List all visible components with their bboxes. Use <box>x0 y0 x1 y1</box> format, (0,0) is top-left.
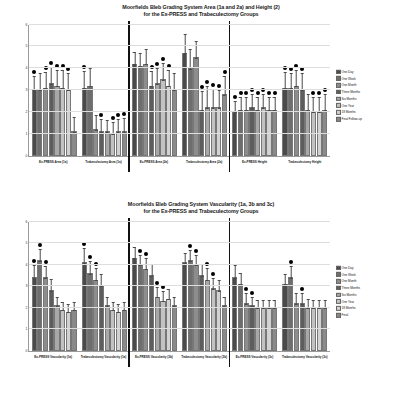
bar <box>54 86 59 156</box>
bar <box>282 284 287 351</box>
bar <box>110 310 115 351</box>
bar <box>32 277 37 350</box>
error-bar <box>90 68 91 86</box>
legend-item[interactable]: Final Follow-up <box>336 117 400 122</box>
error-bar <box>246 97 247 110</box>
error-bar <box>107 120 108 132</box>
legend-swatch <box>336 97 341 102</box>
bar <box>322 308 327 351</box>
bar <box>300 90 305 156</box>
chart-panel-vascularity: Moorfields Bleb Grading System Vasculari… <box>0 195 402 395</box>
legend-label: One Day <box>342 266 354 270</box>
bar <box>37 260 42 350</box>
bar <box>255 308 260 351</box>
error-bar <box>240 97 241 110</box>
error-bar <box>285 72 286 89</box>
legend-item[interactable]: Three Months <box>336 286 400 291</box>
legend-item[interactable]: Six Months <box>336 97 400 102</box>
legend-item[interactable]: One Year <box>336 103 400 108</box>
legend-item[interactable]: One Year <box>336 299 400 304</box>
gridline <box>29 111 330 112</box>
y-axis-tick-label: 5 <box>26 44 28 48</box>
gridline <box>29 264 330 265</box>
legend-item[interactable]: One Day <box>336 69 400 74</box>
error-bar <box>124 118 125 132</box>
error-bar <box>140 53 141 67</box>
legend-item[interactable]: One Month <box>336 279 400 284</box>
error-bar <box>240 273 241 285</box>
legend-swatch <box>336 90 341 95</box>
y-axis-tick-label: 1 <box>26 132 28 136</box>
bar <box>216 107 221 155</box>
error-bar <box>184 253 185 264</box>
chart-title-bottom-line2: for the Ex-PRESS and Trabeculectomy Grou… <box>0 208 402 215</box>
bar <box>43 88 48 156</box>
significance-marker <box>122 112 126 116</box>
error-bar <box>174 297 175 307</box>
bar-group <box>29 222 79 351</box>
legend-item[interactable]: One Month <box>336 83 400 88</box>
significance-marker <box>38 243 42 247</box>
error-bar <box>95 268 96 280</box>
x-axis-label: Trabeculectomy Vascularity (3b) <box>179 354 229 368</box>
bar <box>205 280 210 351</box>
bar <box>49 290 54 350</box>
gridline <box>29 133 330 134</box>
legend-item[interactable]: One Week <box>336 272 400 277</box>
error-bar <box>269 97 270 110</box>
legend-swatch <box>336 69 341 74</box>
legend-item[interactable]: Final <box>336 313 400 318</box>
legend-item[interactable]: One Day <box>336 265 400 270</box>
bar <box>99 131 104 155</box>
significance-marker <box>317 91 321 95</box>
legend-item[interactable]: 18 Months <box>336 110 400 115</box>
bar <box>149 86 154 156</box>
bar <box>261 107 266 155</box>
y-axis-tick-label: 3 <box>26 88 28 92</box>
bar <box>249 107 254 155</box>
bar <box>71 310 76 351</box>
y-axis-tick-label: 3 <box>26 284 28 288</box>
bar <box>155 83 160 155</box>
significance-marker <box>223 70 227 74</box>
bar <box>132 64 137 156</box>
legend-item[interactable]: Six Months <box>336 293 400 298</box>
chart-title-bottom-line1: Moorfields Bleb Grading System Vasculari… <box>0 201 402 208</box>
error-bar <box>224 297 225 307</box>
bar <box>317 112 322 156</box>
error-bar <box>257 97 258 110</box>
significance-marker <box>144 252 148 256</box>
y-axis-tick-label: 0 <box>26 154 28 158</box>
y-axis-tick-label: 1 <box>26 327 28 331</box>
significance-marker <box>99 113 103 117</box>
legend-item[interactable]: 18 Months <box>336 306 400 311</box>
bar <box>211 288 216 350</box>
error-bar <box>290 73 291 89</box>
bar <box>305 308 310 351</box>
error-bar <box>325 94 326 111</box>
significance-marker <box>88 255 92 259</box>
bar <box>261 308 266 351</box>
bar <box>155 297 160 351</box>
bar <box>294 86 299 156</box>
y-axis-tick-label: 2 <box>26 110 28 114</box>
bar <box>49 83 54 155</box>
error-bar <box>290 266 291 278</box>
chart-title-top: Moorfields Bleb Grading System Area (1a … <box>0 0 402 18</box>
error-bar <box>235 265 236 278</box>
bar <box>105 131 110 155</box>
legend-item[interactable]: Three Months <box>336 90 400 95</box>
error-bar <box>168 70 169 87</box>
significance-marker <box>111 116 115 120</box>
bar <box>138 265 143 351</box>
bar <box>60 88 65 156</box>
bar-group <box>79 25 129 156</box>
bar <box>238 284 243 351</box>
error-bar <box>201 264 202 276</box>
legend-item[interactable]: One Week <box>336 76 400 81</box>
bar <box>222 94 227 155</box>
x-axis-label: Ex-PRESS Vascularity (1a) <box>28 354 78 368</box>
bar-group <box>129 222 179 351</box>
legend-label: One Year <box>342 300 355 304</box>
error-bar <box>285 274 286 285</box>
